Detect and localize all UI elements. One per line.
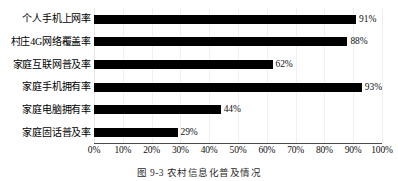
bar	[94, 37, 347, 46]
bar	[94, 128, 178, 137]
x-tick-label: 20%	[143, 146, 160, 156]
category-label: 家庭互联网普及率	[13, 53, 91, 76]
bar-value-label: 88%	[350, 37, 367, 47]
x-axis-line	[94, 143, 382, 144]
figure-bar-chart: 个人手机上网率 村庄4G网络覆盖率 家庭互联网普及率 家庭手机拥有率 家庭电脑拥…	[0, 0, 398, 181]
x-tick-label: 80%	[316, 146, 333, 156]
bar-value-label: 91%	[359, 15, 376, 25]
bar-row: 93%	[94, 76, 382, 99]
bar-row: 88%	[94, 31, 382, 54]
x-tick-label: 70%	[287, 146, 304, 156]
category-label: 个人手机上网率	[22, 8, 91, 31]
x-tick-label: 0%	[88, 146, 100, 156]
plot-area: 91% 88% 62% 93% 44% 29%	[94, 8, 382, 144]
bar-value-label: 29%	[181, 128, 198, 138]
x-axis-tick-labels: 0%10%20%30%40%50%60%70%80%90%100%	[94, 146, 382, 160]
x-tick-label: 40%	[201, 146, 218, 156]
bar-value-label: 93%	[365, 83, 382, 93]
bar-row: 44%	[94, 99, 382, 122]
x-tick-label: 100%	[371, 146, 392, 156]
bar	[94, 83, 362, 92]
category-label: 家庭手机拥有率	[22, 76, 91, 99]
x-tick-label: 50%	[230, 146, 247, 156]
figure-caption: 图 9-3 农村信息化普及情况	[0, 169, 398, 179]
gridline	[382, 8, 383, 144]
bar	[94, 105, 221, 114]
category-label: 家庭电脑拥有率	[22, 99, 91, 122]
bar-row: 62%	[94, 53, 382, 76]
category-label: 家庭固话普及率	[22, 121, 91, 144]
x-tick-label: 30%	[172, 146, 189, 156]
bar-row: 91%	[94, 8, 382, 31]
x-tick-label: 90%	[345, 146, 362, 156]
bar	[94, 60, 273, 69]
y-axis-category-labels: 个人手机上网率 村庄4G网络覆盖率 家庭互联网普及率 家庭手机拥有率 家庭电脑拥…	[0, 8, 91, 144]
bar	[94, 15, 356, 24]
x-tick-label: 10%	[114, 146, 131, 156]
bar-row: 29%	[94, 121, 382, 144]
bar-value-label: 44%	[224, 105, 241, 115]
x-tick-label: 60%	[258, 146, 275, 156]
category-label: 村庄4G网络覆盖率	[11, 31, 91, 54]
bar-value-label: 62%	[276, 60, 293, 70]
